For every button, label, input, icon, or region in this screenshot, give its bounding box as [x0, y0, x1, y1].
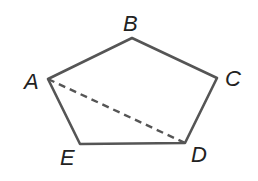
vertex-label-d: D — [191, 142, 207, 167]
vertex-label-c: C — [225, 66, 241, 91]
pentagon-diagram: A B C D E — [0, 0, 258, 181]
vertex-label-a: A — [22, 69, 39, 94]
vertex-label-e: E — [60, 145, 75, 170]
diagonal-ad — [48, 79, 185, 143]
vertex-label-b: B — [123, 11, 138, 36]
